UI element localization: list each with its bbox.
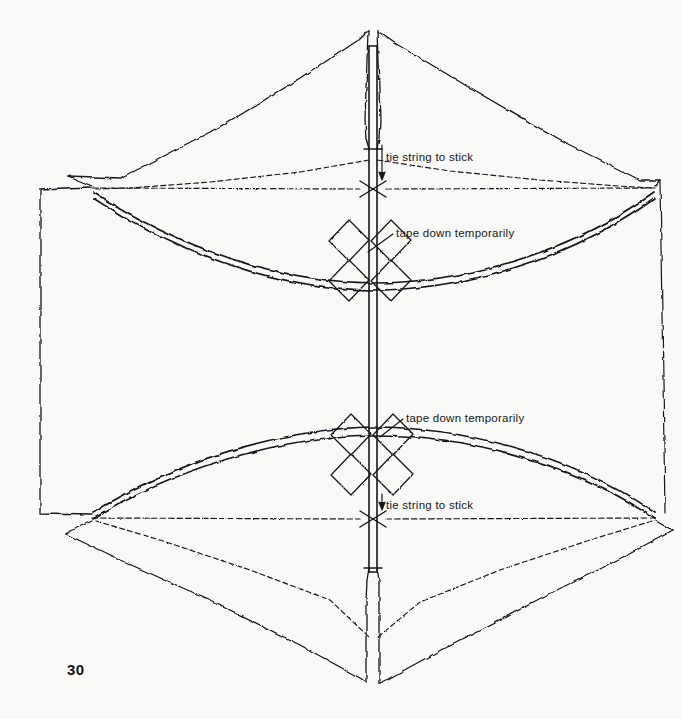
page-number: 30 [67,661,85,678]
annotation-leaders [368,145,403,510]
annotation-tie-string-bottom: tie string to stick [386,500,473,512]
lower-knot [360,511,386,527]
annotation-tie-string-top: tie string to stick [386,152,473,164]
kite-construction-figure [0,0,681,719]
lower-tape-cross [331,414,413,495]
diagram-page: tie string to stick tape down temporaril… [0,0,681,719]
upper-knot [360,181,386,197]
lower-bow-spar [93,427,654,518]
lower-fold-lines [96,521,652,637]
annotation-tape-down-bottom: tape down temporarily [406,413,524,425]
leader-tie-top-arrow [379,172,385,180]
leader-tie-bottom-arrow [379,502,385,510]
upper-fold-lines [96,160,652,189]
right-sail-edge [660,181,665,512]
leader-tape-top [368,234,393,252]
annotation-tape-down-top: tape down temporarily [396,228,514,240]
upper-bow-spar [93,192,654,290]
left-side-flap [40,187,92,514]
upper-sail-panel [68,31,660,186]
